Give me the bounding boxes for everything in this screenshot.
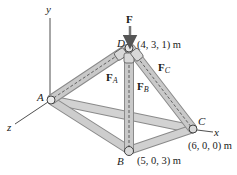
joint-d-coords: (4, 3, 1) m [137,39,181,51]
y-axis-label: y [45,3,51,15]
force-fb-label: FB [137,80,149,94]
joint-c-coords: (6, 0, 0) m [188,140,232,152]
force-fc-label: FC [158,61,171,75]
joint-b-coords: (5, 0, 3) m [137,155,181,167]
x-axis [197,130,213,132]
joint-b [125,147,134,156]
z-axis-label: z [6,121,12,133]
x-axis-label: x [213,126,219,138]
z-axis [15,102,48,124]
joint-c-label: C [198,115,206,127]
member-b-c [130,129,192,150]
force-fa-label: FA [106,71,118,85]
joint-a-label: A [36,91,44,103]
truss-diagram: y z x F D (4, 3, 1) m A B (5, 0, 3) m C … [0,0,237,175]
joint-a [47,96,55,104]
force-label: F [126,13,133,25]
joint-c [189,125,197,133]
joint-b-label: B [117,155,124,167]
joint-d-label: D [116,37,125,49]
joint-d [125,44,133,52]
